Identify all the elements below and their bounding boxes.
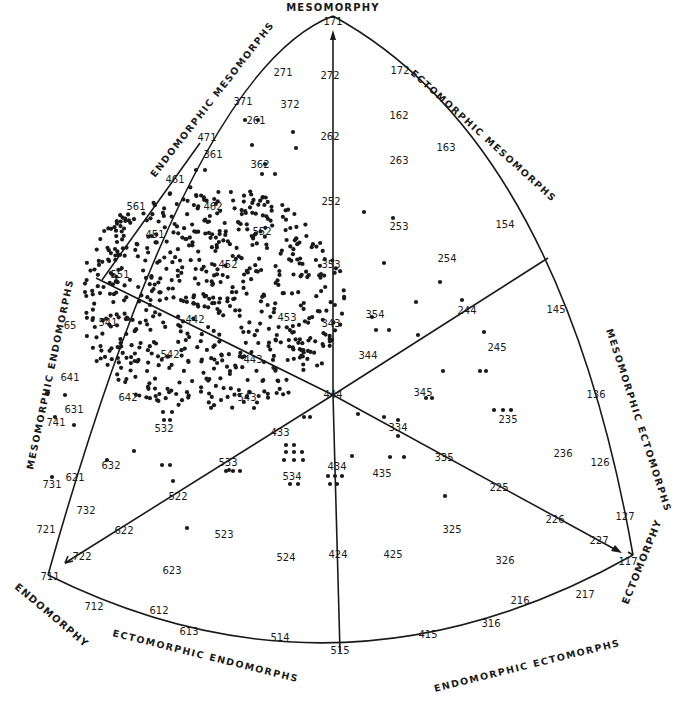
- data-point: [231, 254, 235, 258]
- data-point: [302, 301, 306, 305]
- somatotype-label: 252: [321, 196, 340, 207]
- data-point: [266, 396, 270, 400]
- data-point: [262, 360, 266, 364]
- data-point: [199, 339, 203, 343]
- data-point: [323, 257, 327, 261]
- data-point: [254, 231, 258, 235]
- arrowhead-up-icon: [330, 30, 336, 40]
- somatotype-label: 533: [218, 457, 237, 468]
- data-point: [262, 389, 266, 393]
- data-point: [226, 275, 230, 279]
- data-point: [299, 348, 303, 352]
- data-point: [187, 243, 191, 247]
- somatotype-label: 712: [84, 601, 103, 612]
- data-point: [292, 450, 296, 454]
- data-point: [297, 241, 301, 245]
- data-point: [229, 386, 233, 390]
- data-point: [312, 351, 316, 355]
- data-point: [133, 375, 137, 379]
- data-point: [115, 372, 119, 376]
- data-point: [215, 211, 219, 215]
- data-point: [226, 395, 230, 399]
- data-point: [255, 241, 259, 245]
- data-point: [123, 380, 127, 384]
- data-point: [114, 291, 118, 295]
- data-point: [277, 273, 281, 277]
- data-point: [176, 268, 180, 272]
- somatotype-label: 326: [495, 555, 514, 566]
- data-point: [118, 213, 122, 217]
- data-point: [156, 354, 160, 358]
- pole-endomorphy: ENDOMORPHY: [13, 581, 91, 649]
- data-point: [300, 450, 304, 454]
- data-point: [158, 276, 162, 280]
- data-point: [123, 219, 127, 223]
- data-point: [170, 260, 174, 264]
- data-point: [240, 212, 244, 216]
- data-point: [124, 332, 128, 336]
- somatotype-label: 271: [273, 67, 292, 78]
- data-point: [202, 198, 206, 202]
- data-point: [208, 236, 212, 240]
- data-point: [108, 349, 112, 353]
- data-point: [208, 214, 212, 218]
- somatotype-label: 722: [72, 551, 91, 562]
- data-point: [157, 219, 161, 223]
- data-point: [196, 303, 200, 307]
- data-point: [101, 318, 105, 322]
- data-point: [148, 303, 152, 307]
- data-point: [122, 226, 126, 230]
- data-point: [304, 234, 308, 238]
- data-point: [158, 298, 162, 302]
- data-point: [144, 276, 148, 280]
- somatotype-label: 171: [323, 16, 342, 27]
- data-point: [106, 363, 110, 367]
- data-point: [238, 314, 242, 318]
- data-point: [139, 341, 143, 345]
- somatotype-label: 316: [481, 618, 500, 629]
- data-point: [162, 418, 166, 422]
- somatotype-label: 522: [168, 491, 187, 502]
- somatotype-label: 145: [546, 304, 565, 315]
- data-point: [226, 239, 230, 243]
- data-point: [301, 458, 305, 462]
- data-point: [284, 218, 288, 222]
- data-point: [136, 285, 140, 289]
- data-point: [194, 193, 198, 197]
- data-point: [267, 327, 271, 331]
- data-point: [229, 190, 233, 194]
- data-point: [281, 215, 285, 219]
- data-point: [185, 300, 189, 304]
- data-point: [301, 368, 305, 372]
- data-point: [98, 291, 102, 295]
- data-point: [333, 474, 337, 478]
- data-point: [501, 408, 505, 412]
- data-point: [210, 262, 214, 266]
- data-point: [266, 392, 270, 396]
- data-point: [207, 297, 211, 301]
- data-point: [402, 455, 406, 459]
- data-point: [305, 357, 309, 361]
- data-point: [296, 482, 300, 486]
- data-point: [171, 230, 175, 234]
- data-point: [148, 298, 152, 302]
- data-point: [291, 247, 295, 251]
- somatotype-label: 226: [545, 514, 564, 525]
- data-point: [136, 254, 140, 258]
- data-point: [270, 209, 274, 213]
- data-point: [258, 322, 262, 326]
- somatotype-label: 434: [327, 461, 346, 472]
- somatotype-label: 354: [365, 309, 384, 320]
- data-point: [266, 303, 270, 307]
- data-point: [266, 344, 270, 348]
- data-point: [185, 212, 189, 216]
- data-point: [338, 269, 342, 273]
- data-point: [250, 243, 254, 247]
- data-point: [150, 234, 154, 238]
- data-point: [137, 345, 141, 349]
- data-point: [175, 224, 179, 228]
- data-point: [274, 264, 278, 268]
- data-point: [335, 482, 339, 486]
- data-point: [263, 226, 267, 230]
- data-point: [154, 232, 158, 236]
